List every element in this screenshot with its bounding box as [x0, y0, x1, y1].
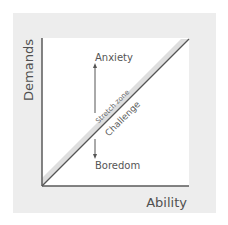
y-axis-label: Demands	[22, 39, 35, 101]
down-arrow-icon	[93, 139, 97, 159]
diagram-graphics	[0, 0, 228, 225]
anxiety-label: Anxiety	[95, 53, 133, 63]
x-axis-label: Ability	[146, 196, 187, 209]
boredom-label: Boredom	[95, 161, 140, 171]
up-arrow-icon	[93, 63, 97, 113]
